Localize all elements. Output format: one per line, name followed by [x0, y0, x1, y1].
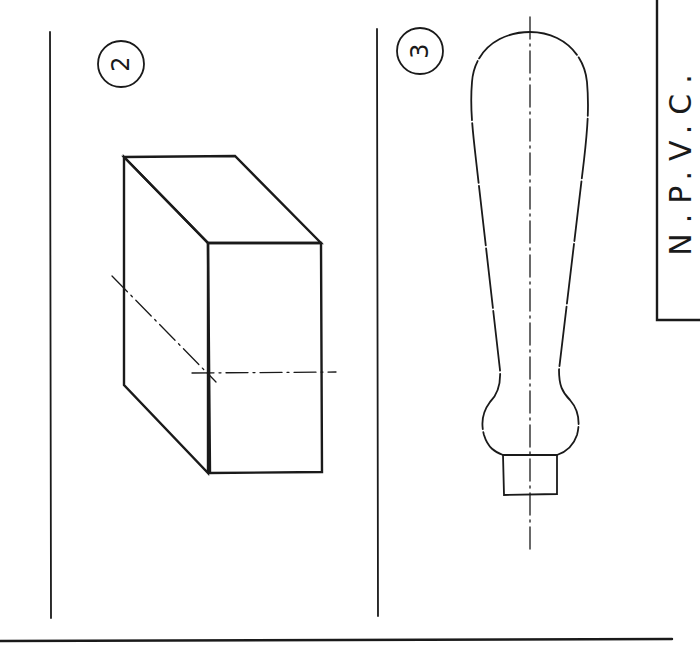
- view-label-3-text: 3: [406, 43, 434, 58]
- handle-profile: [471, 17, 588, 551]
- left-divider-line: [50, 32, 51, 618]
- view-label-3: 3: [397, 28, 443, 74]
- technical-drawing-sheet: 2 3 N.P.V.C.: [0, 0, 700, 659]
- block-top-face: [124, 156, 321, 243]
- title-block: N.P.V.C.: [657, 0, 700, 320]
- block-centerline-horizontal: [192, 372, 336, 373]
- view-label-2: 2: [98, 41, 144, 87]
- block-front-face: [208, 243, 322, 473]
- isometric-block: [112, 156, 336, 473]
- view-label-2-text: 2: [107, 56, 135, 71]
- block-centerline-diagonal: [112, 276, 216, 382]
- middle-divider-line: [377, 29, 378, 616]
- title-block-text: N.P.V.C.: [663, 64, 698, 256]
- bottom-border-line: [0, 639, 672, 641]
- block-side-face: [124, 157, 208, 473]
